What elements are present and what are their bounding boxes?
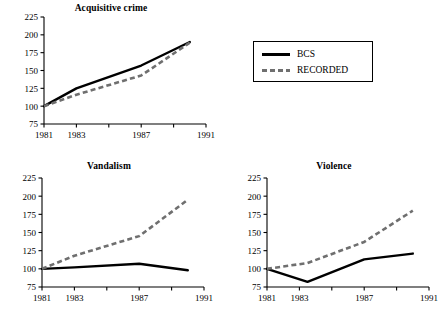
svg-text:1983: 1983 — [290, 293, 309, 303]
plot-acquisitive-crime: 751001251501752002251981198319871991 — [6, 2, 221, 152]
svg-text:1991: 1991 — [420, 293, 438, 303]
svg-text:200: 200 — [23, 192, 37, 202]
svg-text:1991: 1991 — [195, 293, 213, 303]
svg-text:100: 100 — [25, 102, 39, 112]
svg-text:200: 200 — [248, 192, 262, 202]
legend-item-bcs: BCS — [262, 47, 315, 61]
panel-acquisitive-crime: Acquisitive crime 7510012515017520022519… — [6, 2, 221, 152]
svg-text:75: 75 — [252, 282, 262, 292]
svg-text:1983: 1983 — [65, 293, 84, 303]
svg-text:225: 225 — [23, 173, 37, 183]
svg-text:125: 125 — [248, 246, 262, 256]
svg-text:150: 150 — [25, 66, 39, 76]
svg-text:200: 200 — [25, 30, 39, 40]
legend-item-recorded: RECORDED — [262, 63, 348, 77]
svg-text:1991: 1991 — [197, 130, 215, 140]
svg-text:1987: 1987 — [130, 293, 149, 303]
svg-text:175: 175 — [23, 210, 37, 220]
svg-text:1981: 1981 — [33, 293, 51, 303]
svg-text:75: 75 — [27, 282, 37, 292]
svg-text:225: 225 — [25, 12, 39, 22]
panel-violence: Violence 7510012515017520022519811983198… — [229, 160, 444, 318]
svg-text:100: 100 — [248, 264, 262, 274]
svg-text:175: 175 — [25, 48, 39, 58]
svg-text:225: 225 — [248, 173, 262, 183]
legend-line-dashed-icon — [262, 65, 290, 75]
plot-vandalism: 751001251501752002251981198319871991 — [4, 160, 219, 318]
panel-vandalism: Vandalism 751001251501752002251981198319… — [4, 160, 219, 318]
legend: BCS RECORDED — [253, 41, 373, 82]
svg-text:125: 125 — [25, 84, 39, 94]
svg-text:1981: 1981 — [35, 130, 53, 140]
svg-text:100: 100 — [23, 264, 37, 274]
svg-text:150: 150 — [248, 228, 262, 238]
plot-violence: 751001251501752002251981198319871991 — [229, 160, 444, 318]
legend-line-solid-icon — [262, 49, 290, 59]
svg-text:75: 75 — [29, 119, 39, 129]
svg-text:1981: 1981 — [258, 293, 276, 303]
svg-text:150: 150 — [23, 228, 37, 238]
legend-label-recorded: RECORDED — [297, 65, 348, 75]
svg-text:175: 175 — [248, 210, 262, 220]
svg-text:1987: 1987 — [355, 293, 374, 303]
svg-text:1987: 1987 — [132, 130, 151, 140]
svg-text:1983: 1983 — [67, 130, 86, 140]
svg-text:125: 125 — [23, 246, 37, 256]
legend-label-bcs: BCS — [297, 49, 315, 59]
